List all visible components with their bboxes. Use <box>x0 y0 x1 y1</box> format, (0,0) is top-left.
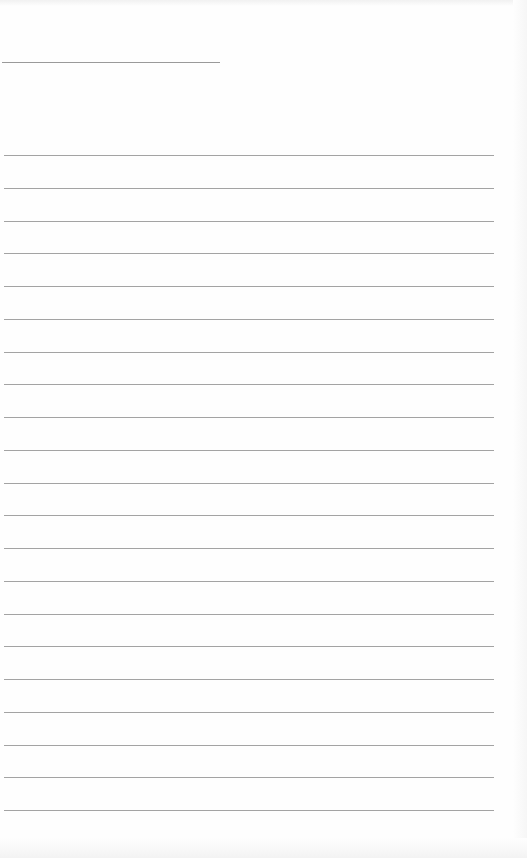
ruled-line <box>4 646 494 647</box>
ruled-line <box>4 417 494 418</box>
ruled-line <box>4 679 494 680</box>
ruled-line <box>4 188 494 189</box>
ruled-line <box>4 450 494 451</box>
title-line <box>2 62 220 63</box>
page-top-shadow <box>0 0 527 6</box>
ruled-line <box>4 384 494 385</box>
ruled-line <box>4 548 494 549</box>
ruled-line <box>4 712 494 713</box>
ruled-line <box>4 483 494 484</box>
lined-paper-page <box>0 0 527 858</box>
ruled-line <box>4 221 494 222</box>
ruled-line <box>4 810 494 811</box>
page-right-edge <box>513 0 527 858</box>
ruled-line <box>4 745 494 746</box>
ruled-line <box>4 581 494 582</box>
page-bottom-shadow <box>0 838 527 858</box>
ruled-line <box>4 515 494 516</box>
ruled-line <box>4 614 494 615</box>
ruled-line <box>4 352 494 353</box>
ruled-line <box>4 319 494 320</box>
ruled-line <box>4 777 494 778</box>
ruled-line <box>4 286 494 287</box>
ruled-line <box>4 155 494 156</box>
ruled-line <box>4 253 494 254</box>
